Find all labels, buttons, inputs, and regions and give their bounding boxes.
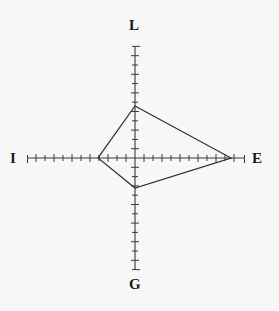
radar-plot-canvas: [0, 0, 279, 311]
horizontal-axis-group: [27, 154, 245, 163]
axis-label-L: L: [129, 18, 139, 33]
axis-label-I: I: [10, 151, 16, 166]
radar-chart-figure: L E G I: [0, 0, 279, 311]
axis-label-E: E: [252, 151, 262, 166]
radar-data-polygon: [98, 106, 231, 188]
axis-label-G: G: [129, 277, 141, 292]
